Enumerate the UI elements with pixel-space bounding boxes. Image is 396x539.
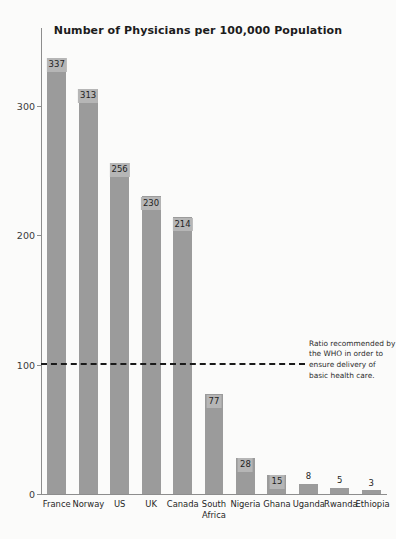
x-axis-label: Canada — [167, 499, 198, 510]
bar[interactable] — [47, 58, 66, 494]
bar-slot[interactable]: 230 — [142, 28, 161, 494]
x-axis-label: Uganda — [293, 499, 324, 510]
x-axis-label: Ethiopia — [356, 499, 387, 510]
x-axis-label: US — [104, 499, 135, 510]
plot-area: 0100200300 337313256230214772815853 — [41, 28, 387, 495]
bar[interactable] — [173, 217, 192, 494]
bar[interactable] — [205, 394, 224, 494]
bar-value-label: 337 — [47, 58, 67, 72]
bar-slot[interactable]: 214 — [173, 28, 192, 494]
bar[interactable] — [362, 490, 381, 494]
bar[interactable] — [79, 89, 98, 494]
y-tick-label: 200 — [17, 230, 35, 241]
x-axis-label: Rwanda — [324, 499, 355, 510]
bar-slot[interactable]: 3 — [362, 28, 381, 494]
bar-slot[interactable]: 256 — [110, 28, 129, 494]
bar-value-label: 3 — [369, 479, 374, 488]
bar-value-label: 5 — [337, 476, 342, 485]
bar-value-label: 15 — [269, 475, 284, 489]
y-tick-mark — [37, 494, 42, 495]
y-tick-label: 300 — [17, 100, 35, 111]
bar-value-label: 256 — [109, 163, 129, 177]
x-axis-label: Nigeria — [230, 499, 261, 510]
bar-series: 337313256230214772815853 — [41, 28, 387, 494]
y-tick-label: 0 — [29, 489, 35, 500]
x-axis-labels: FranceNorwayUSUKCanadaSouth AfricaNigeri… — [41, 499, 387, 539]
bar-value-label: 77 — [207, 395, 222, 409]
who-reference-line — [41, 363, 305, 365]
x-axis-line — [41, 494, 387, 495]
bar-value-label: 28 — [238, 458, 253, 472]
x-axis-label: Norway — [72, 499, 103, 510]
x-axis-label: Ghana — [261, 499, 292, 510]
x-axis-label: UK — [135, 499, 166, 510]
bar-slot[interactable]: 77 — [205, 28, 224, 494]
bar-slot[interactable]: 313 — [79, 28, 98, 494]
bar-value-label: 313 — [78, 89, 98, 103]
bar-slot[interactable]: 5 — [330, 28, 349, 494]
bar-slot[interactable]: 28 — [236, 28, 255, 494]
bar[interactable] — [142, 196, 161, 494]
bar-value-label: 214 — [172, 218, 192, 232]
bar-slot[interactable]: 15 — [267, 28, 286, 494]
bar-slot[interactable]: 337 — [47, 28, 66, 494]
bar-slot[interactable]: 8 — [299, 28, 318, 494]
bar[interactable] — [299, 484, 318, 494]
chart-page: Number of Physicians per 100,000 Populat… — [0, 0, 396, 539]
x-axis-label: France — [41, 499, 72, 510]
who-annotation-text: Ratio recommended by the WHO in order to… — [309, 339, 396, 382]
bar-value-label: 230 — [141, 197, 161, 211]
bar[interactable] — [110, 163, 129, 494]
bar-value-label: 8 — [306, 472, 311, 481]
x-axis-label: South Africa — [198, 499, 229, 522]
bar[interactable] — [330, 488, 349, 494]
y-tick-label: 100 — [17, 359, 35, 370]
